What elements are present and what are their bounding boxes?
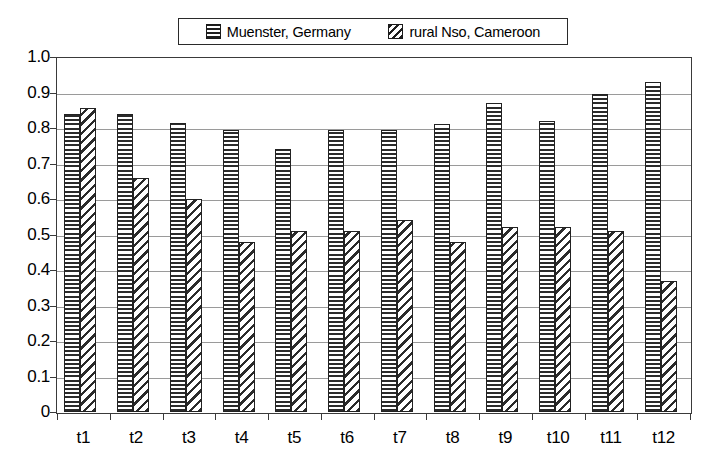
bar-group bbox=[163, 58, 216, 412]
bar bbox=[539, 121, 555, 412]
y-axis-tick-mark bbox=[50, 377, 56, 378]
x-axis-tick-label: t1 bbox=[77, 428, 91, 448]
bar bbox=[80, 108, 96, 412]
legend-label: rural Nso, Cameroon bbox=[409, 24, 540, 40]
y-axis-tick-mark bbox=[50, 57, 56, 58]
y-axis-tick-mark bbox=[50, 412, 56, 413]
chart-legend: Muenster, Germanyrural Nso, Cameroon bbox=[178, 18, 568, 45]
x-axis-tick-label: t9 bbox=[499, 428, 513, 448]
bar-group bbox=[479, 58, 532, 412]
bar bbox=[608, 231, 624, 412]
bar-group bbox=[426, 58, 479, 412]
legend-entry: Muenster, Germany bbox=[206, 24, 351, 40]
bar-group bbox=[374, 58, 427, 412]
bar bbox=[502, 227, 518, 412]
bar-group bbox=[110, 58, 163, 412]
x-axis-tick-label: t2 bbox=[129, 428, 143, 448]
y-axis-tick-mark bbox=[50, 199, 56, 200]
bar bbox=[186, 199, 202, 412]
x-axis-tick-label: t11 bbox=[600, 428, 621, 448]
bar bbox=[486, 103, 502, 412]
y-axis-tick-mark bbox=[50, 235, 56, 236]
x-axis: t1t2t3t4t5t6t7t8t9t10t11t12 bbox=[57, 414, 690, 460]
y-axis-tick-label: 0.6 bbox=[4, 189, 50, 209]
x-axis-tick-mark bbox=[585, 414, 586, 420]
x-axis-tick-label: t5 bbox=[288, 428, 302, 448]
x-axis-tick-label: t3 bbox=[182, 428, 196, 448]
bar-group bbox=[637, 58, 690, 412]
x-axis-tick-mark bbox=[426, 414, 427, 420]
x-axis-tick-label: t10 bbox=[547, 428, 570, 448]
y-axis: 00.10.20.30.40.50.60.70.80.91.0 bbox=[0, 57, 50, 413]
x-axis-tick-label: t4 bbox=[235, 428, 249, 448]
bar bbox=[645, 82, 661, 412]
bar bbox=[275, 149, 291, 412]
y-axis-tick-label: 0.8 bbox=[4, 118, 50, 138]
bar bbox=[133, 178, 149, 412]
x-axis-tick-label: t6 bbox=[340, 428, 354, 448]
y-axis-tick-label: 0.2 bbox=[4, 331, 50, 351]
bar bbox=[555, 227, 571, 412]
bar bbox=[344, 231, 360, 412]
y-axis-tick-label: 0.3 bbox=[4, 296, 50, 316]
y-axis-tick-label: 0.7 bbox=[4, 154, 50, 174]
bar bbox=[170, 123, 186, 412]
x-axis-tick-mark bbox=[374, 414, 375, 420]
bar-group bbox=[57, 58, 110, 412]
bar bbox=[381, 130, 397, 412]
y-axis-tick-mark bbox=[50, 270, 56, 271]
bar bbox=[434, 124, 450, 412]
x-axis-tick-mark bbox=[532, 414, 533, 420]
bar bbox=[592, 94, 608, 412]
y-axis-tick-mark bbox=[50, 306, 56, 307]
bar bbox=[397, 220, 413, 412]
x-axis-tick-label: t8 bbox=[446, 428, 460, 448]
legend-label: Muenster, Germany bbox=[227, 24, 351, 40]
y-axis-tick-mark bbox=[50, 93, 56, 94]
bar-group bbox=[268, 58, 321, 412]
bar bbox=[223, 130, 239, 412]
x-axis-tick-mark bbox=[268, 414, 269, 420]
y-axis-tick-label: 0.5 bbox=[4, 225, 50, 245]
bar-series-container bbox=[57, 58, 690, 412]
diagonal-stripe-swatch bbox=[388, 24, 403, 39]
x-axis-tick-mark bbox=[110, 414, 111, 420]
x-axis-tick-mark bbox=[479, 414, 480, 420]
x-axis-tick-mark bbox=[321, 414, 322, 420]
x-axis-tick-mark bbox=[690, 414, 691, 420]
bar bbox=[328, 130, 344, 412]
bar bbox=[64, 114, 80, 412]
x-axis-tick-label: t7 bbox=[393, 428, 407, 448]
y-axis-tick-label: 1.0 bbox=[4, 47, 50, 67]
y-axis-tick-mark bbox=[50, 164, 56, 165]
bar-chart: Muenster, Germanyrural Nso, Cameroon 00.… bbox=[0, 0, 707, 464]
horizontal-stripe-swatch bbox=[206, 24, 221, 39]
y-axis-tick-label: 0.1 bbox=[4, 367, 50, 387]
bar-group bbox=[532, 58, 585, 412]
bar-group bbox=[215, 58, 268, 412]
x-axis-tick-mark bbox=[57, 414, 58, 420]
x-axis-tick-label: t12 bbox=[652, 428, 675, 448]
y-axis-tick-mark bbox=[50, 341, 56, 342]
bar bbox=[239, 242, 255, 412]
y-axis-tick-label: 0.4 bbox=[4, 260, 50, 280]
y-axis-tick-mark bbox=[50, 128, 56, 129]
x-axis-tick-mark bbox=[163, 414, 164, 420]
bar bbox=[450, 242, 466, 412]
bar-group bbox=[321, 58, 374, 412]
legend-entry: rural Nso, Cameroon bbox=[388, 24, 540, 40]
bar bbox=[117, 114, 133, 412]
y-axis-tick-label: 0.9 bbox=[4, 83, 50, 103]
bar bbox=[291, 231, 307, 412]
x-axis-tick-mark bbox=[215, 414, 216, 420]
x-axis-tick-mark bbox=[637, 414, 638, 420]
bar-group bbox=[585, 58, 638, 412]
y-axis-tick-label: 0 bbox=[4, 402, 50, 422]
bar bbox=[661, 281, 677, 412]
